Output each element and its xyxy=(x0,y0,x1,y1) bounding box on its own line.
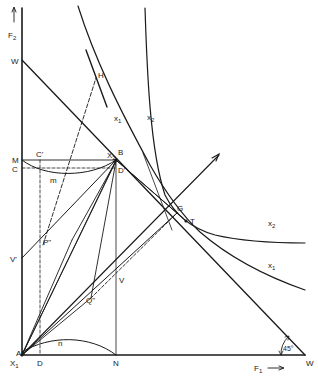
expansion-ray-arrowhead-icon xyxy=(212,154,219,161)
label-a: A xyxy=(16,349,22,358)
x-axis-label: F1 xyxy=(254,364,263,374)
dashed-pdp-h xyxy=(43,78,96,245)
economics-diagram: F2 F1 W W H M C C' X2 B D' m V' P" Q" V … xyxy=(0,0,318,387)
label-m: M xyxy=(12,156,19,165)
label-n-curve: n xyxy=(58,339,62,348)
label-p-double-prime: P" xyxy=(43,238,51,247)
label-v: V xyxy=(119,276,125,285)
label-x2-right: x2 xyxy=(268,219,276,229)
label-w-top: W xyxy=(11,57,19,66)
label-n: N xyxy=(113,359,119,368)
label-w-right: W xyxy=(306,359,314,368)
label-d-prime: D' xyxy=(118,166,126,175)
label-x2-near-b: X2 xyxy=(107,151,116,161)
label-x1-upper: x1 xyxy=(114,114,122,124)
label-g: G xyxy=(177,204,183,213)
y-axis-label: F2 xyxy=(8,31,17,41)
label-x1-origin: X1 xyxy=(10,359,19,369)
label-angle-45: 45° xyxy=(283,345,294,352)
line-vprime-b xyxy=(22,160,116,258)
label-m-curve: m xyxy=(50,176,57,185)
indifference-curve-x2 xyxy=(145,8,305,243)
label-b: B xyxy=(118,148,123,157)
point-a-mark xyxy=(21,352,24,355)
label-t: T xyxy=(190,217,195,226)
label-h: H xyxy=(98,71,104,80)
label-v-prime: V' xyxy=(10,255,17,264)
label-c-prime: C' xyxy=(36,150,44,159)
point-t-mark xyxy=(184,219,187,222)
label-c: C xyxy=(12,165,18,174)
indifference-curve-x1 xyxy=(78,6,305,290)
label-d: D xyxy=(37,359,43,368)
expansion-ray xyxy=(22,155,219,355)
label-q-double-prime: Q" xyxy=(86,296,95,305)
label-x1-right: x1 xyxy=(268,261,276,271)
line-a-b-3 xyxy=(22,240,72,355)
line-a-b-2 xyxy=(22,161,116,355)
